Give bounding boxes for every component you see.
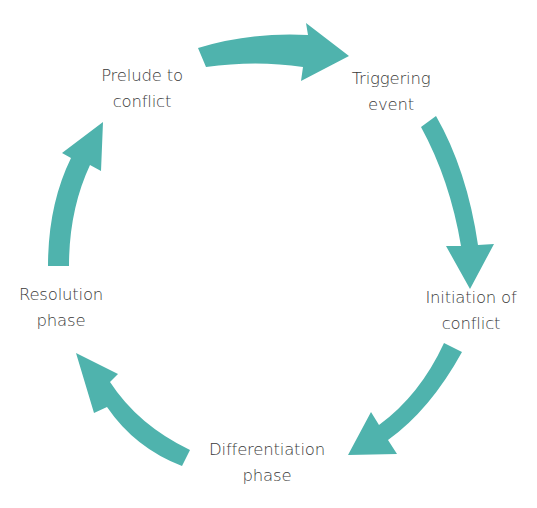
stage-label-line1: Prelude to [101,63,183,89]
stage-label-line1: Initiation of [425,285,516,311]
arrow-prelude-to-triggering [198,23,349,81]
arrow-initiation-to-differentiation [348,343,462,455]
stage-label-line1: Triggering [352,66,431,92]
stage-triggering-event: Triggering event [352,66,431,118]
stage-initiation-of-conflict: Initiation of conflict [425,285,516,337]
arrow-resolution-to-prelude [48,122,103,266]
cycle-diagram [0,0,537,508]
arrow-triggering-to-initiation [421,116,494,289]
stage-label-line2: event [352,92,431,118]
stage-differentiation-phase: Differentiation phase [209,437,325,489]
stage-label-line1: Differentiation [209,437,325,463]
stage-label-line1: Resolution [19,282,103,308]
stage-label-line2: phase [209,463,325,489]
arrow-differentiation-to-resolution [76,353,190,466]
stage-label-line2: conflict [101,89,183,115]
stage-label-line2: phase [19,308,103,334]
stage-prelude-to-conflict: Prelude to conflict [101,63,183,115]
stage-label-line2: conflict [425,311,516,337]
stage-resolution-phase: Resolution phase [19,282,103,334]
